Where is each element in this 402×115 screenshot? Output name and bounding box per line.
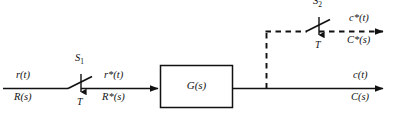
- sampled-input-laplace-label: R*(s): [102, 92, 125, 103]
- sampler-2-label: S2: [313, 0, 322, 9]
- sampled-input-time-label: r*(t): [104, 70, 123, 81]
- sampler-1-period-label: T: [77, 97, 83, 107]
- sampler-2-index: 2: [318, 0, 322, 9]
- sampler-2-blade: [306, 20, 330, 32]
- sampled-output-time-label: c*(t): [349, 13, 369, 24]
- sampler-2-period-label: T: [315, 40, 321, 50]
- sampled-output-laplace-label: C*(s): [347, 35, 370, 46]
- sampler-1-index: 1: [80, 57, 84, 66]
- sampler-1-blade: [68, 77, 92, 89]
- input-time-label: r(t): [16, 70, 30, 81]
- output-time-label: c(t): [353, 70, 368, 81]
- sampler-1-label: S1: [75, 53, 84, 66]
- input-laplace-label: R(s): [14, 92, 32, 103]
- plant-block-label: G(s): [161, 80, 233, 91]
- output-laplace-label: C(s): [351, 92, 369, 103]
- block-diagram: r(t) R(s) S1 T r*(t) R*(s) G(s) S2 T c*(…: [0, 0, 402, 115]
- diagram-canvas: [0, 0, 402, 115]
